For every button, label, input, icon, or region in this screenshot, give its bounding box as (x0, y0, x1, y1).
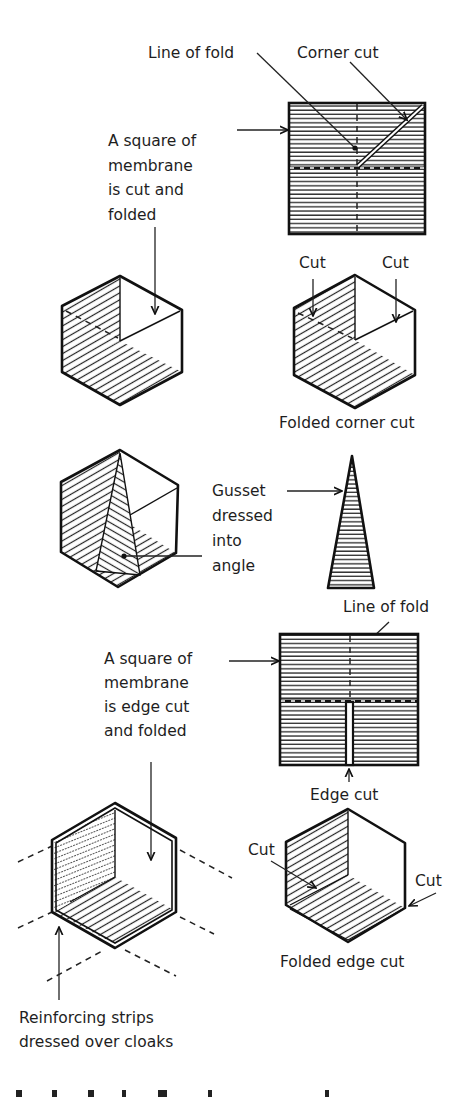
square-edge-cut-label: A square of membrane is edge cut and fol… (104, 650, 197, 740)
clipped-text-fragment (52, 1090, 57, 1097)
edge-cut-right-arrow (409, 893, 436, 906)
edge-cut-label: Edge cut (310, 786, 378, 804)
clipped-text-fragment (325, 1090, 329, 1097)
clipped-text-fragment (158, 1090, 167, 1097)
folded-edge-cut-hexagon: Cut Cut Folded edge cut (248, 809, 442, 971)
cut-right-label: Cut (382, 254, 409, 272)
membrane-folding-diagram: Line of fold Corner cut A square of memb… (0, 0, 466, 1097)
reinforced-hexagon: Reinforcing strips dressed over cloaks (18, 803, 232, 1051)
clipped-text-fragment (208, 1090, 212, 1097)
folded-edge-cut-caption: Folded edge cut (280, 953, 404, 971)
corner-cut-square-group: Line of fold Corner cut A square of memb… (108, 44, 425, 314)
edge-cut-right-label: Cut (415, 872, 442, 890)
gusset-triangle (328, 456, 374, 588)
edge-cut-slit (346, 702, 353, 765)
corner-cut-label: Corner cut (297, 44, 379, 62)
gusset-label: Gusset dressed into angle (212, 482, 278, 575)
gusset-hexagon: Gusset dressed into angle (61, 450, 374, 588)
folded-box-hexagon (62, 276, 182, 405)
edge-cut-square-group: Line of fold A square of membrane is edg… (104, 598, 429, 860)
clipped-text-fragment (16, 1090, 22, 1097)
line-of-fold-label: Line of fold (148, 44, 234, 62)
folded-corner-cut-caption: Folded corner cut (279, 414, 414, 432)
edge-cut-left-label: Cut (248, 841, 275, 859)
reinforcing-strips-label: Reinforcing strips dressed over cloaks (19, 1009, 173, 1051)
folded-corner-cut-hexagon: Cut Cut Folded corner cut (279, 254, 415, 432)
square-cut-folded-label: A square of membrane is cut and folded (108, 132, 201, 224)
clipped-text-fragment (122, 1090, 126, 1097)
edge-line-of-fold-label: Line of fold (343, 598, 429, 616)
clipped-text-fragment (88, 1090, 94, 1097)
cut-left-label: Cut (299, 254, 326, 272)
